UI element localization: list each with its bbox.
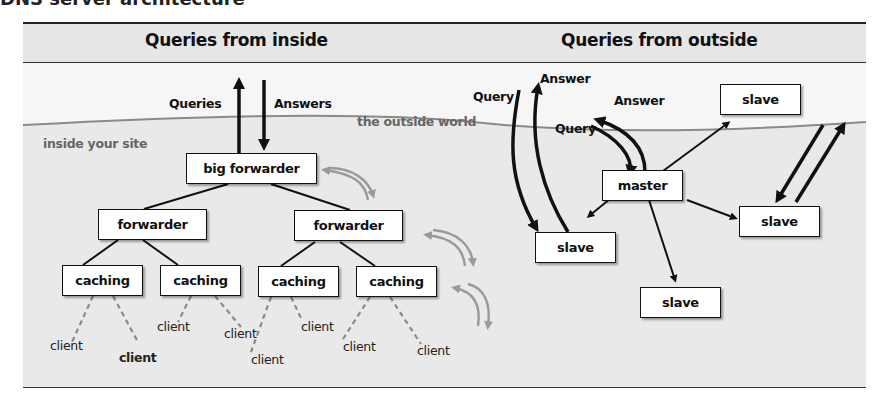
outside-world-label: the outside world bbox=[357, 114, 476, 129]
node-forwarder-right: forwarder bbox=[294, 210, 403, 241]
client-label: client bbox=[224, 326, 257, 341]
query-label-1: Query bbox=[473, 89, 514, 104]
client-label: client bbox=[301, 319, 334, 334]
queries-label: Queries bbox=[169, 96, 221, 111]
bottom-rule bbox=[23, 387, 866, 388]
diagram-canvas bbox=[23, 22, 866, 388]
node-slave-right: slave bbox=[739, 206, 820, 237]
header-queries-outside: Queries from outside bbox=[561, 30, 758, 50]
node-caching-4: caching bbox=[356, 266, 437, 297]
answer-label-2: Answer bbox=[614, 93, 664, 108]
answer-label-1: Answer bbox=[540, 71, 590, 86]
architecture-panel: Queries from inside Queries from outside… bbox=[23, 22, 866, 388]
inside-site-label: inside your site bbox=[43, 136, 147, 151]
node-slave-bottom: slave bbox=[640, 287, 721, 318]
client-label: client bbox=[251, 352, 284, 367]
section-header-bar: Queries from inside Queries from outside bbox=[23, 22, 866, 63]
client-label: client bbox=[343, 339, 376, 354]
figure-title: DNS server architecture bbox=[0, 0, 245, 9]
client-label: client bbox=[50, 338, 83, 353]
node-caching-2: caching bbox=[160, 265, 241, 296]
node-caching-1: caching bbox=[62, 265, 143, 296]
client-label: client bbox=[417, 343, 450, 358]
node-forwarder-left: forwarder bbox=[98, 209, 207, 240]
node-master: master bbox=[602, 170, 683, 201]
node-slave-left: slave bbox=[535, 232, 616, 263]
node-slave-top: slave bbox=[720, 84, 801, 115]
node-caching-3: caching bbox=[258, 266, 339, 297]
header-queries-inside: Queries from inside bbox=[145, 30, 328, 50]
node-big-forwarder: big forwarder bbox=[186, 153, 317, 184]
client-label: client bbox=[157, 319, 190, 334]
answers-label: Answers bbox=[274, 96, 332, 111]
client-label: client bbox=[119, 350, 157, 365]
query-label-2: Query bbox=[555, 121, 596, 136]
